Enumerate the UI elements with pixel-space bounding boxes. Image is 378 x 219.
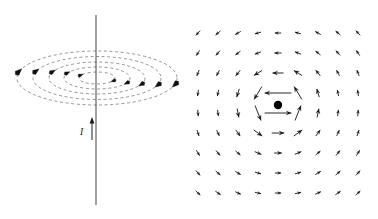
vector-arrow-r6-c6 <box>294 130 302 136</box>
vector-arrow-r1-c9 <box>356 31 360 35</box>
vector-arrow-r7-c4 <box>255 151 261 154</box>
vector-arrow-r1-c1 <box>196 31 200 35</box>
field-line-ellipse-5 <box>79 72 115 84</box>
vector-arrow-r9-c8 <box>336 191 341 194</box>
vector-arrow-r2-c9 <box>357 51 360 56</box>
vector-arrow-r4-c7 <box>316 89 320 97</box>
ellipse-arrowhead-2-1 <box>33 69 39 74</box>
vector-arrow-r9-c9 <box>356 191 360 195</box>
vector-arrow-r3-c5 <box>273 71 283 75</box>
vector-arrow-r5-c3 <box>236 109 240 117</box>
vector-arrow-r3-c6-head <box>294 71 299 75</box>
vector-arrow-r8-c4 <box>255 172 260 175</box>
vector-arrow-r1-c5 <box>275 32 281 35</box>
current-label: I <box>79 127 84 137</box>
vector-arrow-r3-c2 <box>217 71 220 76</box>
vector-arrow-r6-c5 <box>272 131 284 135</box>
ellipse-arrowhead-4-1 <box>64 72 70 76</box>
vector-arrow-r7-c1 <box>197 151 200 156</box>
field-line-ellipse-4 <box>64 67 130 89</box>
vector-arrow-r7-c9 <box>357 151 360 156</box>
vector-arrow-r6-c1 <box>197 130 200 135</box>
vector-arrow-r2-c3 <box>236 51 240 54</box>
vector-arrow-r6-c3 <box>236 130 240 136</box>
vector-arrow-r8-c6 <box>295 172 300 175</box>
vector-arrow-r1-c2 <box>216 31 220 35</box>
ellipse-arrowhead-4-2 <box>124 80 130 84</box>
vector-arrow-r6-c2 <box>217 131 220 136</box>
current-direction-arrowhead <box>90 117 95 124</box>
vector-arrow-r2-c4 <box>255 51 261 54</box>
vector-arrow-r6-c4 <box>254 130 262 136</box>
vector-arrow-r5-c2 <box>217 110 220 115</box>
ellipse-arrowhead-3-2 <box>139 81 145 86</box>
vector-arrow-r6-c9 <box>357 130 360 135</box>
vector-arrow-r1-c3 <box>236 32 241 35</box>
vector-arrow-r2-c5 <box>275 51 281 54</box>
vector-arrow-r1-c4 <box>255 32 260 35</box>
left-panel-group: I <box>15 15 179 205</box>
vector-arrow-r6-c7-head <box>316 130 320 134</box>
vector-arrow-r3-c8 <box>337 71 340 76</box>
vector-arrow-r9-c4 <box>255 192 260 195</box>
vector-arrow-r3-c4 <box>254 71 261 76</box>
vector-arrow-r5-c5 <box>265 111 291 115</box>
vector-arrow-r4-c8 <box>337 90 340 95</box>
vector-arrow-r7-c7 <box>316 151 320 155</box>
vector-arrow-r4-c9 <box>357 90 360 95</box>
vector-arrow-r9-c5 <box>275 192 281 195</box>
vector-arrow-r9-c6 <box>295 192 300 195</box>
ellipse-arrowhead-3-1 <box>49 70 55 75</box>
vector-arrow-r8-c1 <box>196 171 200 175</box>
vector-arrow-r3-c9 <box>357 70 360 75</box>
vector-arrow-r3-c4-head <box>254 71 259 75</box>
vector-arrow-r4-c3 <box>236 89 240 97</box>
vector-arrow-r7-c6 <box>295 152 301 155</box>
vector-arrow-r2-c1 <box>197 51 200 56</box>
vector-arrow-r6-c3-head <box>236 132 240 136</box>
vector-arrow-r4-c1 <box>197 90 200 95</box>
vector-arrow-r3-c1 <box>197 70 200 75</box>
vector-arrow-r4-c4 <box>254 87 261 99</box>
vector-arrow-r6-c7 <box>316 130 320 136</box>
vector-arrow-r6-c8 <box>337 131 340 136</box>
figure-canvas: I <box>0 0 378 219</box>
vector-arrow-r3-c7 <box>316 70 320 75</box>
right-panel-group <box>196 31 360 195</box>
vector-arrow-r9-c1 <box>196 191 200 195</box>
vector-arrow-r9-c7 <box>316 192 321 195</box>
vector-arrow-r5-c8 <box>337 110 340 115</box>
vector-arrow-r7-c3 <box>236 151 240 155</box>
field-line-ellipse-1 <box>17 51 177 105</box>
vector-arrow-r1-c8 <box>336 31 340 35</box>
vector-arrow-r5-c6 <box>295 106 301 120</box>
vector-arrow-r8-c9 <box>356 171 360 175</box>
vector-arrow-r5-c1 <box>197 110 200 115</box>
vector-arrow-r7-c5 <box>275 151 282 154</box>
current-out-of-page-dot <box>274 101 282 109</box>
vector-arrow-r7-c2 <box>216 151 219 155</box>
vector-arrow-r2-c6 <box>295 52 301 55</box>
physics-figure: I <box>0 0 378 219</box>
ellipse-arrowhead-2-2 <box>155 82 161 87</box>
vector-arrow-r9-c3 <box>236 192 241 195</box>
vector-arrow-r8-c5 <box>275 172 281 175</box>
ellipse-arrowhead-1-1 <box>15 69 22 75</box>
vector-arrow-r2-c8 <box>336 51 340 55</box>
vector-arrow-r5-c9 <box>357 110 360 115</box>
vector-arrow-r2-c7 <box>316 51 320 54</box>
ellipse-arrowhead-5-1 <box>78 74 83 77</box>
vector-arrow-r1-c6 <box>295 32 300 35</box>
vector-arrow-r4-c6 <box>294 87 301 99</box>
vector-arrow-r8-c7 <box>316 172 321 175</box>
vector-arrow-r3-c3 <box>236 70 240 75</box>
vector-arrow-r8-c3 <box>236 172 241 175</box>
vector-arrow-r9-c2 <box>216 191 221 194</box>
vector-arrow-r5-c4 <box>255 106 261 120</box>
vector-arrow-r7-c8 <box>336 151 339 155</box>
ellipse-arrowhead-5-2 <box>111 79 116 82</box>
field-line-ellipse-3 <box>49 62 145 94</box>
vector-arrow-r8-c8 <box>336 171 340 175</box>
ellipse-arrowhead-1-2 <box>172 81 179 87</box>
vector-arrow-r8-c2 <box>216 171 220 175</box>
